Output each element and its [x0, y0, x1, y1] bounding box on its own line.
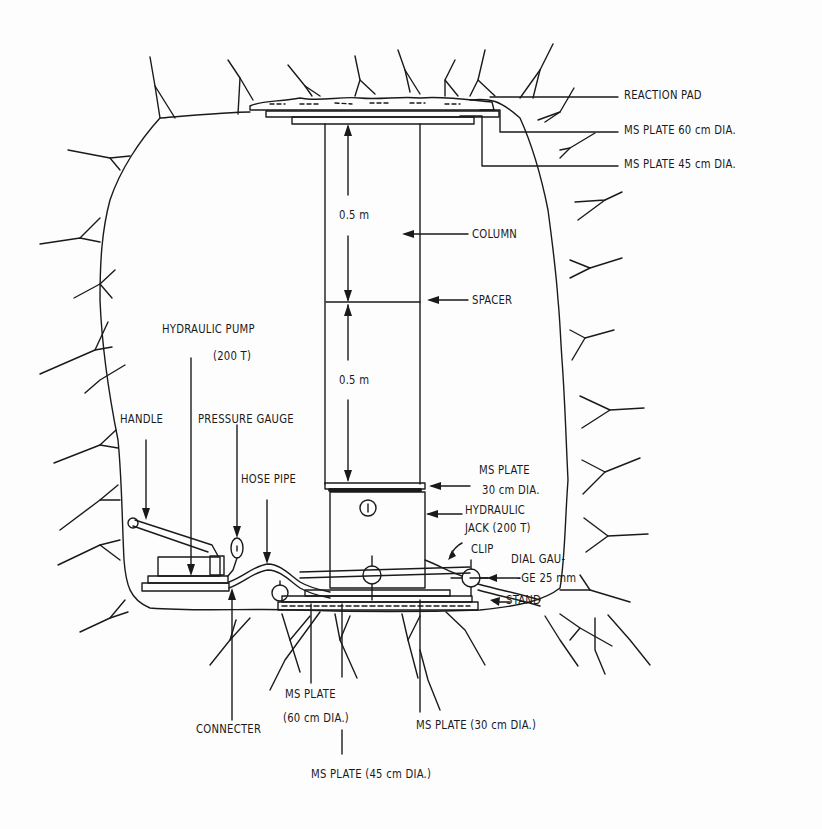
- label-ms-plate-top-60: MS PLATE 60 cm DIA.: [624, 122, 736, 137]
- label-clip: CLIP: [471, 541, 494, 556]
- label-dial-gauge: DIAL GAU-: [511, 551, 565, 566]
- label-column: COLUMN: [472, 226, 517, 241]
- test-setup-diagram: REACTION PAD MS PLATE 60 cm DIA. MS PLAT…: [0, 0, 822, 829]
- label-hydraulic-jack-capacity: JACK (200 T): [465, 520, 531, 535]
- label-ms-plate-top-45: MS PLATE 45 cm DIA.: [624, 156, 736, 171]
- label-ms-plate-bottom-45: MS PLATE (45 cm DIA.): [311, 766, 431, 781]
- ms-plate-top: [266, 111, 499, 124]
- label-stand: STAND: [506, 592, 541, 607]
- label-reaction-pad: REACTION PAD: [624, 87, 702, 102]
- hydraulic-jack: [325, 482, 470, 588]
- label-hydraulic-pump: HYDRAULIC PUMP: [162, 321, 255, 336]
- label-ms-plate-bottom-60-dia: (60 cm DIA.): [283, 710, 349, 725]
- column: [325, 124, 420, 484]
- label-ms-plate-bottom-60: MS PLATE: [285, 686, 336, 701]
- label-dim-lower: 0.5 m: [339, 372, 369, 387]
- label-handle: HANDLE: [120, 411, 163, 426]
- label-hydraulic-jack: HYDRAULIC: [465, 502, 525, 517]
- label-dial-gauge-range: -GE 25 mm: [517, 570, 576, 585]
- ms-plate-bottom: [278, 590, 478, 610]
- label-ms-plate-30: MS PLATE: [479, 462, 530, 477]
- label-hydraulic-pump-capacity: (200 T): [213, 348, 251, 363]
- label-ms-plate-bottom-30: MS PLATE (30 cm DIA.): [416, 717, 536, 732]
- label-spacer: SPACER: [472, 292, 512, 307]
- reaction-pad: [250, 97, 494, 110]
- label-pressure-gauge: PRESSURE GAUGE: [198, 411, 294, 426]
- label-connecter: CONNECTER: [196, 721, 261, 736]
- dimension-lines: [344, 124, 352, 482]
- leader-lines-top: [402, 97, 618, 304]
- label-ms-plate-30-dia: 30 cm DIA.: [482, 482, 540, 497]
- label-dim-upper: 0.5 m: [339, 207, 369, 222]
- hydraulic-pump: [128, 518, 243, 591]
- label-hose-pipe: HOSE PIPE: [241, 471, 296, 486]
